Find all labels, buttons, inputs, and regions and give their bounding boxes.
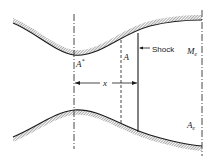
shock-leader <box>139 47 150 50</box>
arrowhead-right-icon <box>132 81 137 85</box>
arrowhead-icon <box>139 47 143 50</box>
shock-label: Shock <box>152 45 175 54</box>
exit-area-label: Ae <box>186 120 196 131</box>
local-area-label: A <box>123 52 130 62</box>
distance-label: x <box>102 78 107 88</box>
exit-mach-label: Me <box>186 46 198 57</box>
throat-area-label: A* <box>75 58 85 69</box>
lower-wall <box>13 110 202 151</box>
nozzle-diagram: A* A Shock x Me Ae <box>0 0 212 160</box>
arrowhead-left-icon <box>75 81 80 85</box>
